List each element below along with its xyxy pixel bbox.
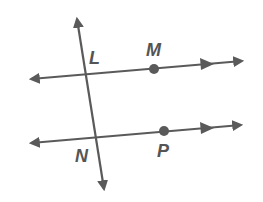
point-m-dot xyxy=(149,64,159,74)
diagram-canvas: L M N P xyxy=(0,0,263,202)
label-p: P xyxy=(157,141,170,161)
label-l: L xyxy=(89,48,100,68)
lower-parallel-mark-icon xyxy=(200,122,214,134)
label-n: N xyxy=(75,146,89,166)
upper-parallel-mark-icon xyxy=(200,58,214,70)
point-p-dot xyxy=(159,126,169,136)
label-m: M xyxy=(146,40,162,60)
